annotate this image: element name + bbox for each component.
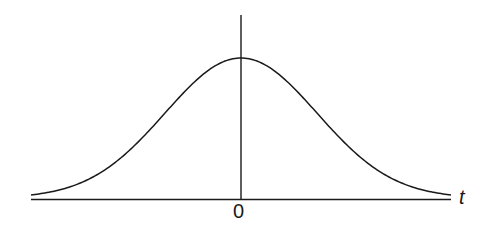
t-axis-label: t [459,186,465,209]
origin-label: 0 [233,200,244,223]
bell-curve-figure [0,0,490,235]
